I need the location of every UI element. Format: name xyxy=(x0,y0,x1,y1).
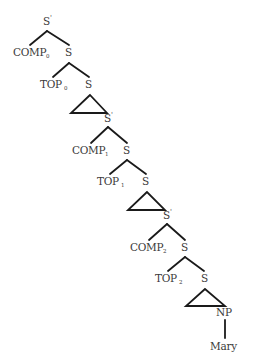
node-s0: S xyxy=(65,46,72,58)
svg-text:TOP: TOP xyxy=(155,272,177,284)
svg-text:COMP: COMP xyxy=(130,241,163,253)
edge-s0-s0b xyxy=(69,63,89,77)
svg-text:0: 0 xyxy=(46,53,50,59)
node-leaf-mary: Mary xyxy=(210,340,237,352)
node-sbar2: S ' xyxy=(163,208,172,221)
node-s0b: S xyxy=(85,78,92,90)
triangle-1 xyxy=(128,192,165,210)
svg-text:2: 2 xyxy=(179,279,183,285)
svg-text:S: S xyxy=(43,15,50,27)
node-comp0: COMP 0 xyxy=(13,46,50,59)
svg-text:TOP: TOP xyxy=(40,78,62,90)
svg-text:COMP: COMP xyxy=(13,46,46,58)
edge-s2-s2b xyxy=(185,257,204,271)
edge-s1-top1 xyxy=(110,160,127,174)
node-top2: TOP 2 xyxy=(155,272,183,285)
edge-root-s0 xyxy=(47,31,69,45)
edge-s2-top2 xyxy=(168,257,185,271)
svg-text:2: 2 xyxy=(163,248,167,254)
svg-text:0: 0 xyxy=(64,85,68,91)
node-s2b: S xyxy=(201,272,208,284)
edge-root-comp0 xyxy=(30,31,47,45)
svg-text:COMP: COMP xyxy=(72,144,105,156)
svg-text:S: S xyxy=(163,209,170,221)
svg-text:': ' xyxy=(111,111,113,119)
tree-svg: S ' COMP 0 S TOP 0 S S ' COMP 1 S xyxy=(0,0,254,363)
triangle-2 xyxy=(186,289,225,306)
svg-text:TOP: TOP xyxy=(97,175,119,187)
svg-text:S: S xyxy=(104,112,111,124)
edge-sbar2-s2 xyxy=(167,224,185,240)
node-s2: S xyxy=(181,241,188,253)
edge-sbar1-s1 xyxy=(108,127,127,143)
svg-text:': ' xyxy=(50,14,52,22)
node-s1: S xyxy=(123,144,130,156)
node-comp1: COMP 1 xyxy=(72,144,109,157)
node-sbar1: S ' xyxy=(104,111,113,124)
edge-s1-s1b xyxy=(127,160,146,174)
node-root-sbar: S ' xyxy=(43,14,52,27)
syntax-tree-diagram: S ' COMP 0 S TOP 0 S S ' COMP 1 S xyxy=(0,0,254,363)
node-top1: TOP 1 xyxy=(97,175,125,188)
edge-sbar1-comp1 xyxy=(91,127,108,143)
svg-text:1: 1 xyxy=(105,151,109,157)
svg-text:1: 1 xyxy=(121,182,125,188)
svg-text:': ' xyxy=(170,208,172,216)
node-comp2: COMP 2 xyxy=(130,241,167,254)
node-s1b: S xyxy=(142,175,149,187)
triangle-0 xyxy=(71,95,107,113)
edge-sbar2-comp2 xyxy=(149,224,167,240)
edge-s0-top0 xyxy=(53,63,69,77)
node-top0: TOP 0 xyxy=(40,78,68,91)
node-np: NP xyxy=(216,306,232,318)
